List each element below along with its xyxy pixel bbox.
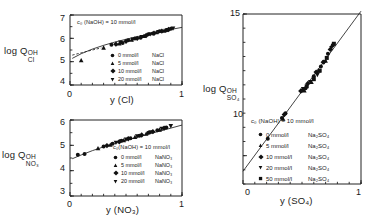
chart-panel-no3: log QOHNO₃ 6 5 4 3 0 1 y (NO₃) c₀(NaOH) … (0, 108, 195, 221)
anion-selectivity-figure: log QOHCl 7 6 5 4 0 1 y (Cl) c₀ (NaOH) =… (0, 0, 383, 221)
plot-area-no3 (0, 108, 195, 221)
chart-panel-so4: log QOHSO₄ 15 10 0 1 y (SO₄) c₀ (NaOH) =… (195, 0, 383, 221)
chart-panel-cl: log QOHCl 7 6 5 4 0 1 y (Cl) c₀ (NaOH) =… (0, 0, 195, 108)
plot-area-so4 (195, 0, 383, 221)
plot-area-cl (0, 0, 195, 108)
